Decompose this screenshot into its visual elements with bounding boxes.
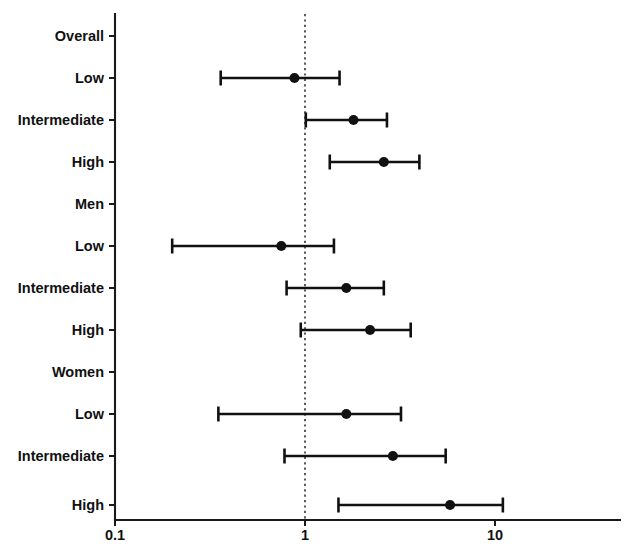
point-estimate-row-3 <box>379 157 389 167</box>
axis-group <box>109 14 620 526</box>
ci-whisker-row-6 <box>287 281 384 296</box>
point-estimate-group <box>276 73 455 510</box>
ci-whisker-row-2 <box>306 113 387 128</box>
point-estimate-row-9 <box>341 409 351 419</box>
ci-whisker-row-10 <box>284 449 445 464</box>
y-axis-tick-label-intermediate-6: Intermediate <box>18 280 104 296</box>
y-axis-tick-label-intermediate-10: Intermediate <box>18 448 104 464</box>
y-axis-tick-label-low-9: Low <box>75 406 105 422</box>
y-axis-tick-label-men-4: Men <box>75 196 104 212</box>
point-estimate-row-6 <box>341 283 351 293</box>
y-axis-tick-label-high-11: High <box>72 497 104 513</box>
point-estimate-row-5 <box>276 241 286 251</box>
y-axis-tick-label-intermediate-2: Intermediate <box>18 112 104 128</box>
x-axis-tick-labels: 0.1110 <box>105 527 503 543</box>
forest-plot: OverallLowIntermediateHighMenLowIntermed… <box>0 0 627 546</box>
point-estimate-row-10 <box>388 451 398 461</box>
y-axis-tick-label-high-3: High <box>72 154 104 170</box>
y-axis-tick-labels: OverallLowIntermediateHighMenLowIntermed… <box>18 28 105 513</box>
point-estimate-row-7 <box>365 325 375 335</box>
ci-whisker-row-11 <box>338 498 502 513</box>
x-axis-tick-label-2: 10 <box>487 527 503 543</box>
y-axis-tick-label-low-1: Low <box>75 70 105 86</box>
y-axis-tick-label-low-5: Low <box>75 238 105 254</box>
ci-whisker-row-9 <box>218 407 401 422</box>
ci-whisker-row-1 <box>221 71 340 86</box>
y-axis-tick-label-overall-0: Overall <box>55 28 104 44</box>
x-axis-tick-label-0: 0.1 <box>105 527 125 543</box>
confidence-interval-group <box>172 71 503 513</box>
point-estimate-row-11 <box>445 500 455 510</box>
point-estimate-row-1 <box>289 73 299 83</box>
y-axis-tick-label-women-8: Women <box>52 364 104 380</box>
point-estimate-row-2 <box>349 115 359 125</box>
y-axis-tick-label-high-7: High <box>72 322 104 338</box>
x-axis-tick-label-1: 1 <box>301 527 309 543</box>
forest-plot-canvas: OverallLowIntermediateHighMenLowIntermed… <box>0 0 627 546</box>
ci-whisker-row-5 <box>172 239 334 254</box>
ci-whisker-row-7 <box>301 323 411 338</box>
ci-whisker-row-3 <box>330 155 420 170</box>
